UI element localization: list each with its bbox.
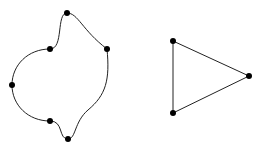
curved-cycle-graph (9, 10, 110, 142)
vertex (65, 136, 71, 142)
vertex (64, 10, 70, 16)
triangle-edges (173, 41, 249, 113)
vertex (9, 82, 15, 88)
vertex (47, 46, 53, 52)
vertex (170, 110, 176, 116)
curved-cycle-edges (12, 13, 108, 139)
diagram-canvas (0, 0, 264, 148)
vertex (170, 38, 176, 44)
vertex (246, 73, 252, 79)
triangle-graph (170, 38, 252, 116)
vertex (104, 46, 110, 52)
vertex (47, 118, 53, 124)
